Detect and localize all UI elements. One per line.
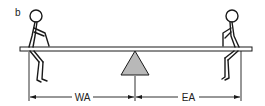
fulcrum-triangle	[121, 51, 149, 75]
panel-label: b	[15, 7, 21, 18]
seesaw-beam	[20, 47, 252, 51]
left-person-icon	[29, 10, 49, 82]
dimension-label-wa: WA	[75, 92, 91, 103]
dimension-label-ea: EA	[182, 92, 196, 103]
right-person-icon	[222, 10, 239, 80]
seesaw-diagram: b	[0, 0, 265, 106]
